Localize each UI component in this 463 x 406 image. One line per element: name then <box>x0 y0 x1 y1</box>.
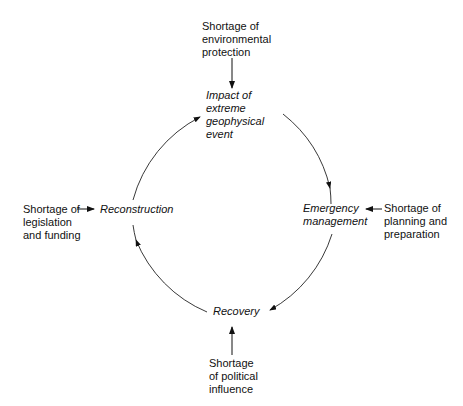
stage-recovery: Recovery <box>211 305 261 318</box>
stage-impact: Impact of extreme geophysical event <box>206 89 264 141</box>
shortage-planning-preparation: Shortage of planning and preparation <box>384 202 447 241</box>
arc-emergency-to-recovery <box>270 234 332 310</box>
shortage-environmental-protection: Shortage of environmental protection <box>202 20 271 59</box>
shortage-political-influence: Shortage of political influence <box>209 357 258 396</box>
arc-recovery-to-reconstruction <box>136 240 207 312</box>
stage-reconstruction: Reconstruction <box>100 203 173 216</box>
shortage-legislation-funding: Shortage of legislation and funding <box>23 203 81 242</box>
arc-impact-to-emergency <box>283 114 330 188</box>
stage-emergency-management: Emergency management <box>303 202 367 228</box>
arc-reconstruction-to-impact <box>133 117 200 200</box>
